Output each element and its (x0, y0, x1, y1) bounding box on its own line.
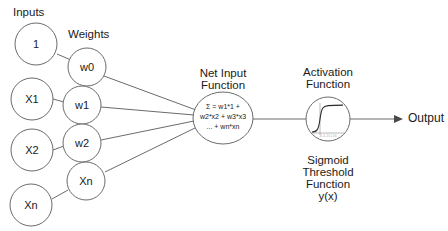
edge-w2-to-net-input (101, 121, 194, 140)
label-inputs: Inputs (13, 6, 45, 18)
label-net-input-function-line-2: Function (201, 79, 245, 91)
input-node-x1-label: X1 (25, 93, 38, 105)
weight-node-wn-label: Xn (79, 175, 92, 187)
label-sigmoid-line-1: Sigmoid (307, 154, 349, 166)
weight-node-w2-label: w2 (74, 137, 89, 149)
label-activation-function-line-1: Activation (303, 66, 353, 78)
net-input-formula-line-2: w2*x2 + w3*x3 (199, 113, 246, 120)
neural-neuron-diagram: 1 X1 X2 Xn w0 w1 w2 Xn Σ = w1*1 + w2*x2 … (0, 0, 448, 231)
edge-w1-to-net-input (101, 107, 194, 115)
edge-input-x1-to-w1 (53, 99, 64, 102)
net-input-formula-line-1: Σ = w1*1 + (206, 103, 240, 110)
label-output: Output (408, 111, 445, 125)
edge-input-1-to-w0 (57, 54, 71, 60)
input-node-x2-label: X2 (25, 144, 38, 156)
weight-node-w0-label: w0 (79, 61, 94, 73)
label-weights: Weights (68, 28, 110, 40)
weight-node-w1-label: w1 (74, 99, 89, 111)
label-sigmoid-line-4: y(x) (318, 190, 337, 202)
edge-wn-to-net-input (105, 127, 197, 172)
net-input-formula-line-3: ... + wn*xn (207, 123, 240, 130)
output-arrow-icon (394, 115, 403, 123)
edge-w0-to-net-input (104, 76, 196, 110)
input-node-1-label: 1 (33, 38, 39, 50)
label-sigmoid-line-3: Function (306, 178, 350, 190)
diagram-canvas: 1 X1 X2 Xn w0 w1 w2 Xn Σ = w1*1 + w2*x2 … (0, 0, 448, 231)
input-node-xn-label: Xn (24, 199, 37, 211)
label-net-input-function-line-1: Net Input (200, 67, 247, 79)
edge-input-xn-to-wn (52, 190, 68, 199)
label-activation-function-line-2: Function (306, 78, 350, 90)
sigmoid-tick-labels: -6 -4 -2 0 2 4 6 (319, 134, 337, 138)
edge-input-x2-to-w2 (53, 146, 64, 150)
label-sigmoid-line-2: Threshold (302, 166, 353, 178)
